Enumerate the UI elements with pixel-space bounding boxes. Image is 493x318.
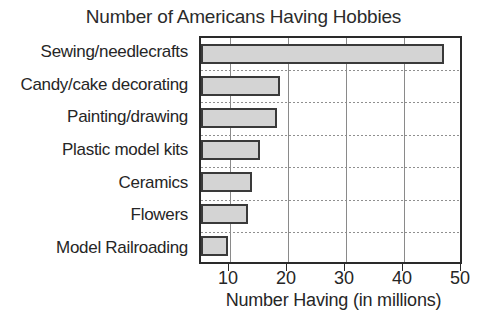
bar-row — [201, 134, 460, 166]
x-tick-label: 50 — [450, 268, 470, 289]
category-label: Sewing/needlecrafts — [0, 36, 194, 69]
chart-title: Number of Americans Having Hobbies — [0, 6, 487, 28]
x-axis-title: Number Having (in millions) — [180, 290, 487, 311]
bar-chart: Number of Americans Having Hobbies Sewin… — [0, 0, 493, 318]
bar-candy-cake-decorating — [201, 76, 280, 96]
bar-sewing-needlecrafts — [201, 44, 444, 64]
x-tick-label: 30 — [334, 268, 354, 289]
bar-row — [201, 70, 460, 102]
x-tick-label: 10 — [218, 268, 238, 289]
category-label: Painting/drawing — [0, 101, 194, 134]
bar-ceramics — [201, 172, 252, 192]
bar-row — [201, 166, 460, 198]
category-label: Plastic model kits — [0, 134, 194, 167]
bar-row — [201, 230, 460, 262]
category-label: Flowers — [0, 199, 194, 232]
bar-row — [201, 102, 460, 134]
bar-row — [201, 198, 460, 230]
category-label: Model Railroading — [0, 231, 194, 264]
bar-rows — [201, 38, 460, 262]
x-tick-label: 20 — [276, 268, 296, 289]
x-tick-label: 40 — [392, 268, 412, 289]
plot-area — [199, 36, 462, 264]
bar-model-railroading — [201, 236, 228, 256]
bar-flowers — [201, 204, 248, 224]
category-axis-labels: Sewing/needlecrafts Candy/cake decoratin… — [0, 36, 194, 264]
bar-row — [201, 38, 460, 70]
bar-plastic-model-kits — [201, 140, 260, 160]
x-axis-labels: 10 20 30 40 50 — [199, 268, 462, 292]
category-label: Ceramics — [0, 166, 194, 199]
bar-painting-drawing — [201, 108, 277, 128]
category-label: Candy/cake decorating — [0, 69, 194, 102]
